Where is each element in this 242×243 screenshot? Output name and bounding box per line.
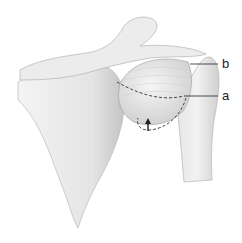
shoulder-illustration: b a [0, 0, 242, 243]
scapula [18, 64, 124, 228]
label-a: a [222, 88, 230, 103]
label-b: b [222, 56, 229, 71]
